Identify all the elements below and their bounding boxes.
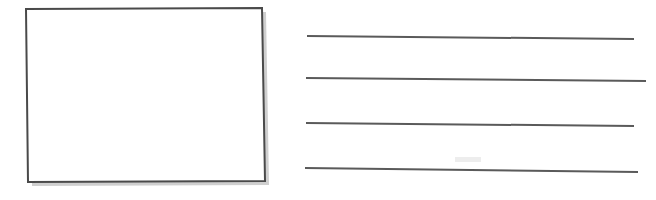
text-line-3-label: text-line-3	[304, 116, 305, 117]
text-line-4[interactable]: text-line-4	[305, 162, 647, 176]
text-line-2[interactable]: text-line-2	[305, 72, 647, 86]
text-line-2-label: text-line-2	[304, 71, 305, 72]
text-line-1[interactable]: text-line-1	[305, 30, 647, 44]
image-placeholder-label: Image placeholder	[23, 5, 24, 6]
image-placeholder-box[interactable]: Image placeholder	[24, 6, 269, 186]
text-line-1-label: text-line-1	[304, 29, 305, 30]
sketch-canvas: Image placeholder text-line-1 text-line-…	[0, 0, 656, 200]
text-line-3[interactable]: text-line-3	[305, 117, 647, 131]
text-line-4-label: text-line-4	[304, 161, 305, 162]
